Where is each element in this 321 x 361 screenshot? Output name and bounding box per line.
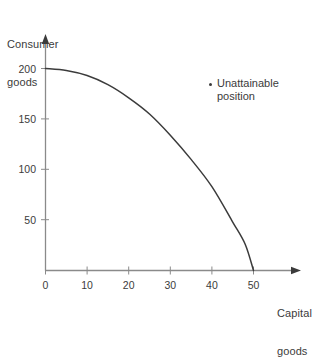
x-tick-label-20: 20 [123,279,135,291]
unattainable-position-annotation: Unattainable position [217,77,312,103]
x-tick-label-50: 50 [248,279,260,291]
y-tick-label-150: 150 [18,113,36,125]
x-tick-label-10: 10 [81,279,93,291]
y-tick-label-100: 100 [18,163,36,175]
annotation-line2: position [217,90,312,103]
annotation-line1: Unattainable [217,77,312,90]
x-axis-arrowhead [291,267,301,274]
x-tick-label-40: 40 [206,279,218,291]
unattainable-position-dot-icon [209,83,212,86]
y-axis-title-line2: goods [7,76,59,89]
x-axis-title-line2: goods [277,345,312,358]
y-tick-label-50: 50 [24,214,36,226]
x-tick-label-30: 30 [164,279,176,291]
y-tick-label-200: 200 [18,63,36,75]
x-axis-title-line1: Capital [277,307,312,320]
y-axis-title-line1: Consumer [7,38,59,51]
x-axis-title: Capital goods [277,282,312,361]
x-tick-label-0: 0 [43,279,49,291]
